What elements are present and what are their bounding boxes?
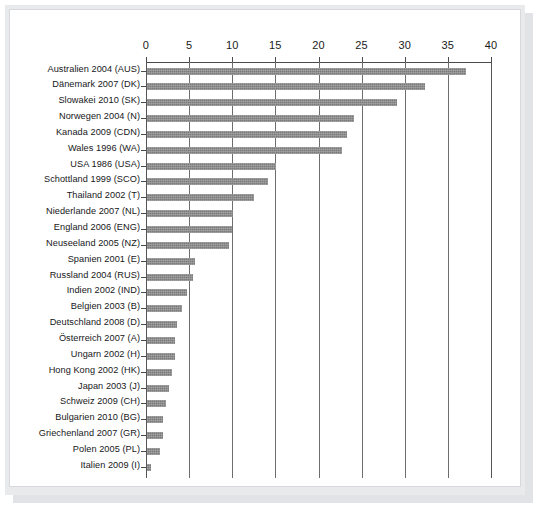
category-tick <box>141 324 146 325</box>
x-tick-label-20: 20 <box>304 39 334 51</box>
gridline-5 <box>189 62 190 478</box>
category-tick <box>141 277 146 278</box>
category-tick <box>141 388 146 389</box>
x-tick-label-0: 0 <box>131 39 161 51</box>
bar <box>147 337 175 344</box>
gridline-40 <box>491 62 492 478</box>
bar <box>147 68 466 75</box>
category-tick <box>141 292 146 293</box>
gridline-10 <box>232 62 233 478</box>
bar <box>147 210 233 217</box>
category-tick <box>141 102 146 103</box>
category-tick <box>141 86 146 87</box>
x-tick-label-35: 35 <box>433 39 463 51</box>
category-label: Italien 2009 (I) <box>10 460 140 470</box>
gridline-30 <box>405 62 406 478</box>
bar <box>147 163 276 170</box>
category-tick <box>141 340 146 341</box>
category-tick <box>141 166 146 167</box>
category-tick <box>141 213 146 214</box>
bar <box>147 194 254 201</box>
bar <box>147 432 163 439</box>
category-label: Dänemark 2007 (DK) <box>10 79 140 89</box>
x-tick-label-5: 5 <box>174 39 204 51</box>
category-tick <box>141 372 146 373</box>
bar <box>147 305 182 312</box>
category-label: Indien 2002 (IND) <box>10 285 140 295</box>
bar <box>147 464 151 471</box>
x-tick-label-15: 15 <box>260 39 290 51</box>
bar <box>147 289 187 296</box>
category-label: Wales 1996 (WA) <box>10 143 140 153</box>
bar <box>147 448 160 455</box>
category-tick <box>141 435 146 436</box>
category-label: Kanada 2009 (CDN) <box>10 127 140 137</box>
category-label: Ungarn 2002 (H) <box>10 349 140 359</box>
category-label: Japan 2003 (J) <box>10 381 140 391</box>
gridline-15 <box>275 62 276 478</box>
x-tick-label-25: 25 <box>347 39 377 51</box>
category-tick <box>141 197 146 198</box>
bar <box>147 353 175 360</box>
bar <box>147 83 425 90</box>
figure: 0510152025303540 Australien 2004 (AUS)Dä… <box>0 0 538 508</box>
category-tick <box>141 419 146 420</box>
x-tick-label-10: 10 <box>217 39 247 51</box>
category-tick <box>141 245 146 246</box>
category-label: Niederlande 2007 (NL) <box>10 206 140 216</box>
bar <box>147 369 172 376</box>
category-label: Schottland 1999 (SCO) <box>10 174 140 184</box>
category-tick <box>141 71 146 72</box>
category-label: Schweiz 2009 (CH) <box>10 396 140 406</box>
category-tick <box>141 451 146 452</box>
category-tick <box>141 118 146 119</box>
category-tick <box>141 403 146 404</box>
category-label: Norwegen 2004 (N) <box>10 111 140 121</box>
bar <box>147 147 342 154</box>
bar <box>147 321 177 328</box>
bar <box>147 115 354 122</box>
bar <box>147 400 166 407</box>
plot-box <box>146 62 491 478</box>
category-tick <box>141 150 146 151</box>
category-label: Griechenland 2007 (GR) <box>10 428 140 438</box>
bar <box>147 258 195 265</box>
category-tick <box>141 181 146 182</box>
bar <box>147 242 229 249</box>
gridline-35 <box>448 62 449 478</box>
bar <box>147 385 169 392</box>
bar <box>147 274 193 281</box>
category-tick <box>141 134 146 135</box>
category-label: Deutschland 2008 (D) <box>10 317 140 327</box>
bar <box>147 131 347 138</box>
category-label: USA 1986 (USA) <box>10 159 140 169</box>
category-label: Thailand 2002 (T) <box>10 190 140 200</box>
category-tick <box>141 467 146 468</box>
gridline-20 <box>319 62 320 478</box>
category-label: Polen 2005 (PL) <box>10 444 140 454</box>
bar <box>147 226 232 233</box>
category-label: Belgien 2003 (B) <box>10 301 140 311</box>
category-tick <box>141 356 146 357</box>
category-label: Bulgarien 2010 (BG) <box>10 412 140 422</box>
category-tick <box>141 308 146 309</box>
category-label: Neuseeland 2005 (NZ) <box>10 238 140 248</box>
category-label: Hong Kong 2002 (HK) <box>10 365 140 375</box>
category-label: Slowakei 2010 (SK) <box>10 95 140 105</box>
category-label: Australien 2004 (AUS) <box>10 64 140 74</box>
category-label: Spanien 2001 (E) <box>10 254 140 264</box>
category-label: Österreich 2007 (A) <box>10 333 140 343</box>
category-tick <box>141 261 146 262</box>
gridline-25 <box>362 62 363 478</box>
plot-card: 0510152025303540 Australien 2004 (AUS)Dä… <box>9 9 521 487</box>
bar <box>147 178 268 185</box>
category-tick <box>141 229 146 230</box>
bar-chart: 0510152025303540 Australien 2004 (AUS)Dä… <box>10 10 522 488</box>
category-label: Russland 2004 (RUS) <box>10 270 140 280</box>
category-label: England 2006 (ENG) <box>10 222 140 232</box>
x-tick-label-40: 40 <box>476 39 506 51</box>
x-tick-label-30: 30 <box>390 39 420 51</box>
bar <box>147 416 163 423</box>
bar <box>147 99 397 106</box>
